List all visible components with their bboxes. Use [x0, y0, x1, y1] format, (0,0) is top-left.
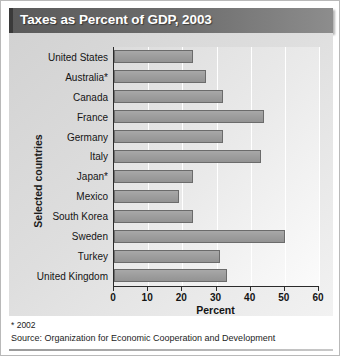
x-tick-10 — [147, 287, 148, 291]
y-tick-label: Australia* — [65, 71, 108, 82]
y-tick-label: Italy — [90, 151, 108, 162]
bar-row: South Korea — [114, 206, 319, 226]
bar-row: United Kingdom — [114, 266, 319, 286]
bar-row: Australia* — [114, 67, 319, 87]
bar-row: Germany — [114, 127, 319, 147]
x-tick-label: 0 — [110, 292, 116, 303]
bar — [114, 210, 193, 223]
bar — [114, 230, 285, 243]
chart-figure: Taxes as Percent of GDP, 2003 Selected c… — [0, 0, 340, 356]
title-accent-bar — [9, 8, 13, 33]
bar-row: United States — [114, 47, 319, 67]
bar — [114, 50, 193, 63]
bar — [114, 269, 227, 282]
bar — [114, 190, 179, 203]
bar-row: Sweden — [114, 226, 319, 246]
x-tick-label: 30 — [210, 292, 221, 303]
gridline-60 — [319, 47, 320, 286]
bar-series: United StatesAustralia*CanadaFranceGerma… — [114, 47, 319, 286]
y-tick-label: Japan* — [77, 171, 108, 182]
x-axis-label: Percent — [113, 304, 318, 316]
x-tick-label: 60 — [312, 292, 323, 303]
x-tick-label: 40 — [244, 292, 255, 303]
bar-row: Mexico — [114, 186, 319, 206]
y-tick-label: Germany — [67, 131, 108, 142]
bar-row: Turkey — [114, 246, 319, 266]
bar — [114, 90, 223, 103]
bar — [114, 170, 193, 183]
y-tick-label: Turkey — [78, 251, 108, 262]
source-note: Source: Organization for Economic Cooper… — [11, 333, 275, 343]
y-tick-label: Sweden — [72, 231, 108, 242]
x-tick-30 — [216, 287, 217, 291]
bar — [114, 130, 223, 143]
y-axis-label: Selected countries — [32, 121, 44, 241]
x-tick-label: 20 — [176, 292, 187, 303]
x-tick-50 — [284, 287, 285, 291]
x-tick-20 — [181, 287, 182, 291]
bar — [114, 250, 220, 263]
y-tick-label: France — [77, 111, 108, 122]
x-tick-label: 50 — [278, 292, 289, 303]
y-tick-label: South Korea — [52, 211, 108, 222]
bar — [114, 70, 206, 83]
bar — [114, 150, 261, 163]
bar — [114, 110, 264, 123]
bar-row: Japan* — [114, 166, 319, 186]
plot-area: United StatesAustralia*CanadaFranceGerma… — [113, 47, 319, 287]
bottom-divider — [9, 349, 333, 351]
x-tick-label: 10 — [142, 292, 153, 303]
bar-row: Canada — [114, 87, 319, 107]
y-tick-label: United States — [48, 51, 108, 62]
bar-row: Italy — [114, 147, 319, 167]
y-tick-label: Mexico — [76, 191, 108, 202]
bar-row: France — [114, 107, 319, 127]
chart-title-bar: Taxes as Percent of GDP, 2003 — [9, 8, 333, 33]
x-tick-0 — [113, 287, 114, 291]
x-tick-60 — [318, 287, 319, 291]
x-tick-40 — [250, 287, 251, 291]
page-title: Taxes as Percent of GDP, 2003 — [20, 12, 212, 27]
y-tick-label: Canada — [73, 91, 108, 102]
y-tick-label: United Kingdom — [37, 270, 108, 281]
footnote-asterisk: * 2002 — [11, 320, 36, 330]
